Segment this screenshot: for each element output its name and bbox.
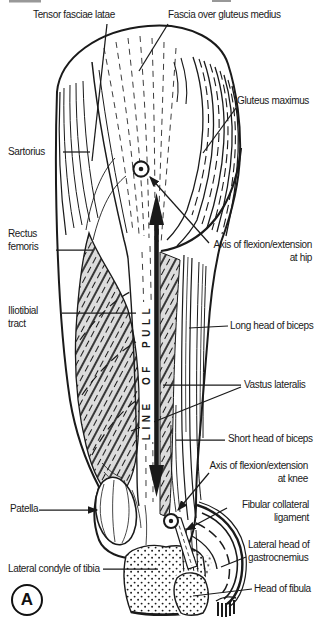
label-axis-flexion-extension-hip: Axis of flexion/extension at hip [213,239,312,264]
label-lateral-condyle-of-tibia: Lateral condyle of tibia [8,563,100,576]
label-short-head-of-biceps: Short head of biceps [228,433,313,446]
label-gluteus-maximus: Gluteus maximus [237,95,309,108]
line-of-pull-label: LINE OF PULL [140,302,154,442]
label-patella: Patella [10,503,38,516]
head-of-fibula-shape [174,573,208,615]
label-fibular-collateral-ligament: Fibular collateral ligament [242,499,309,524]
page-crop-marks [9,0,231,3]
label-rectus-femoris-line1: Rectus [8,228,38,241]
label-gastrocnemius-line1: Lateral head of [248,539,309,552]
label-fascia-over-gluteus-medius: Fascia over gluteus medius [168,9,281,22]
thigh-lateral-view-drawing [0,0,322,623]
label-iliotibial-line1: Iliotibial [8,305,38,318]
label-sartorius: Sartorius [8,146,45,159]
label-axis-knee-line1: Axis of flexion/extension [209,460,308,473]
label-gastrocnemius-line2: gastrocnemius [248,552,309,565]
label-axis-flexion-extension-knee: Axis of flexion/extension at knee [209,460,308,485]
label-axis-knee-line2: at knee [209,473,308,486]
anatomy-diagram-panel: Tensor fasciae latae Fascia over gluteus… [0,0,322,623]
hip-axis-marker [133,161,148,176]
label-fibular-line2: ligament [242,512,309,525]
label-axis-hip-line1: Axis of flexion/extension [213,239,312,252]
label-long-head-of-biceps: Long head of biceps [230,320,313,333]
label-rectus-femoris: Rectus femoris [8,228,38,253]
label-axis-hip-line2: at hip [213,252,312,265]
cut-muscle-comb [216,597,236,617]
knee-axis-marker [164,514,178,528]
label-iliotibial-line2: tract [8,318,38,331]
label-fibular-line1: Fibular collateral [242,499,309,512]
label-lateral-head-of-gastrocnemius: Lateral head of gastrocnemius [248,539,309,564]
label-iliotibial-tract: Iliotibial tract [8,305,38,330]
panel-letter-badge: A [11,584,43,616]
label-head-of-fibula: Head of fibula [254,583,311,596]
label-vastus-lateralis: Vastus lateralis [244,379,305,392]
label-rectus-femoris-line2: femoris [8,241,38,254]
label-tensor-fasciae-latae: Tensor fasciae latae [33,9,115,22]
